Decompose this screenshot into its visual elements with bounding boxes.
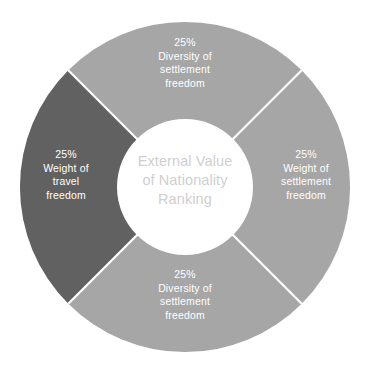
donut-chart: 25% Diversity of settlement freedom 25% …: [0, 0, 369, 373]
donut-center-hole: [117, 119, 253, 255]
donut-chart-svg: [0, 0, 369, 373]
